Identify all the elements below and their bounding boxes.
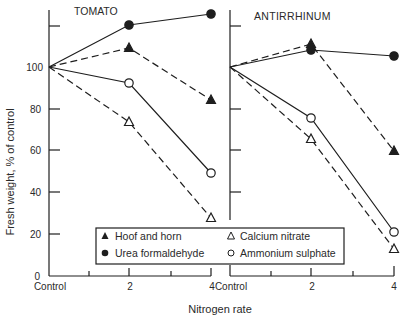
markers-antirrhinum xyxy=(307,39,399,253)
marker-filled-triangle xyxy=(207,95,216,104)
legend-calcium-label: Calcium nitrate xyxy=(240,230,310,242)
marker-open-triangle xyxy=(125,117,134,126)
legend-ammonium-label: Ammonium sulphate xyxy=(240,247,336,259)
legend-hoof-label: Hoof and horn xyxy=(115,230,182,242)
panel-title-antirrhinum: ANTIRRHINUM xyxy=(254,10,331,22)
marker-open-circle xyxy=(125,79,133,87)
marker-filled-circle xyxy=(390,52,398,60)
x-tick-left-control: Control xyxy=(34,281,66,292)
x-tick-right-4: 4 xyxy=(391,281,397,292)
y-axis-title: Fresh weight, % of control xyxy=(4,108,16,235)
line-antirrhinum-calcium xyxy=(230,67,394,249)
y-tick-100: 100 xyxy=(26,62,43,73)
y-tick-80: 80 xyxy=(30,104,42,115)
line-tomato-hoof xyxy=(49,48,211,100)
y-tick-40: 40 xyxy=(30,187,42,198)
x-axis-title: Nitrogen rate xyxy=(188,303,252,315)
markers-tomato xyxy=(125,10,216,222)
x-tick-right-control: Control xyxy=(215,281,247,292)
legend-urea-icon xyxy=(102,250,109,257)
marker-open-circle xyxy=(207,169,215,177)
line-antirrhinum-ammonium xyxy=(230,67,394,232)
y-tick-20: 20 xyxy=(30,229,42,240)
x-tick-left-2: 2 xyxy=(127,281,133,292)
marker-filled-circle xyxy=(207,10,215,18)
chart-figure: Fresh weight, % of control 0 20 40 60 80… xyxy=(0,0,409,318)
marker-open-triangle xyxy=(207,213,216,222)
marker-open-triangle xyxy=(307,134,316,143)
marker-filled-triangle xyxy=(307,39,316,48)
marker-open-circle xyxy=(390,228,398,236)
marker-filled-triangle xyxy=(125,43,134,52)
line-tomato-calcium xyxy=(49,67,211,218)
y-tick-60: 60 xyxy=(30,145,42,156)
legend: Hoof and horn Urea formaldehyde Calcium … xyxy=(96,228,344,264)
panel-title-tomato: TOMATO xyxy=(74,5,118,17)
marker-filled-circle xyxy=(125,21,133,29)
x-tick-right-2: 2 xyxy=(309,281,315,292)
marker-open-circle xyxy=(307,114,315,122)
marker-open-triangle xyxy=(390,244,399,253)
legend-urea-label: Urea formaldehyde xyxy=(115,247,204,259)
x-tick-labels: Control 2 4 Control 2 4 xyxy=(34,281,397,292)
y-tick-labels: 0 20 40 60 80 100 xyxy=(26,62,43,282)
legend-ammonium-icon xyxy=(228,250,234,256)
